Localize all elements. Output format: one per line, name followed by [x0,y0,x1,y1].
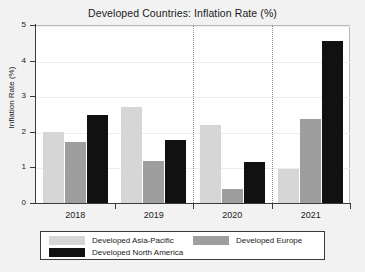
x-tick-label-2018: 2018 [45,210,105,220]
y-tick-label: 4 [0,56,26,65]
legend-swatch [49,248,85,257]
legend-label: Developed North America [92,248,183,257]
x-tick-label-2020: 2020 [202,210,262,220]
bar-2018-developed-north-america [87,115,108,203]
bar-2019-developed-europe [143,161,164,203]
legend-label: Developed Europe [236,236,302,245]
legend-label: Developed Asia-Pacific [92,236,174,245]
x-tick-mark [272,204,273,209]
legend-swatch [193,236,229,245]
y-tick-mark [30,167,35,168]
bar-2018-developed-europe [65,142,86,203]
y-tick-label: 1 [0,162,26,171]
y-tick-label: 5 [0,20,26,29]
bar-2020-developed-asia-pacific [200,125,221,203]
y-tick-label: 0 [0,198,26,207]
y-tick-mark [30,132,35,133]
legend-entry-developed-north-america[interactable]: Developed North America [49,248,183,257]
x-tick-mark [350,204,351,209]
bar-2021-developed-europe [300,119,321,203]
y-tick-mark [30,25,35,26]
bar-2020-developed-europe [222,189,243,203]
y-axis-spine [35,24,36,204]
bar-2019-developed-asia-pacific [121,107,142,203]
legend-entry-developed-europe[interactable]: Developed Europe [193,236,302,245]
x-tick-label-2021: 2021 [281,210,341,220]
y-tick-mark [30,96,35,97]
period-separator-line [193,25,194,203]
legend-swatch [49,236,85,245]
x-tick-mark [193,204,194,209]
chart-title: Developed Countries: Inflation Rate (%) [0,7,365,19]
y-tick-label: 3 [0,91,26,100]
bar-2020-developed-north-america [244,162,265,203]
legend-entry-developed-asia-pacific[interactable]: Developed Asia-Pacific [49,236,174,245]
chart-figure: Developed Countries: Inflation Rate (%) … [0,0,365,272]
x-tick-mark [115,204,116,209]
x-tick-label-2019: 2019 [124,210,184,220]
chart-legend: Developed Asia-PacificDeveloped EuropeDe… [40,231,325,260]
y-tick-label: 2 [0,127,26,136]
bar-2018-developed-asia-pacific [43,132,64,203]
bar-2021-developed-asia-pacific [278,169,299,203]
y-tick-mark [30,203,35,204]
period-separator-line [272,25,273,203]
bar-2019-developed-north-america [165,140,186,203]
bar-2021-developed-north-america [322,41,343,203]
y-tick-mark [30,61,35,62]
